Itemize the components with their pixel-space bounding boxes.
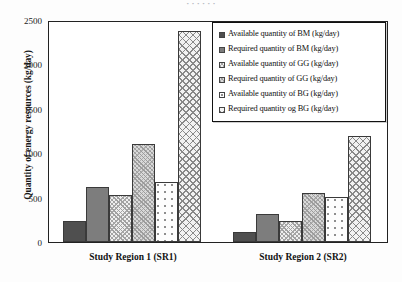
bar [86,187,109,242]
bar [155,182,178,242]
bar [302,193,325,242]
legend-swatch-icon [219,32,225,38]
legend-label: Required quantity of BM (kg/day) [228,45,338,53]
y-tick-label: 1500 [0,105,42,115]
legend-item: Available quantity of GG (kg/day) [219,57,381,72]
x-category-label: Study Region 2 (SR2) [259,252,346,262]
y-tick-label: 2000 [0,60,42,70]
legend-item: Available quantity of BM (kg/day) [219,27,381,42]
y-tick-label: 1000 [0,149,42,159]
y-tick-label: 500 [0,194,42,204]
legend-swatch-icon [219,77,225,83]
chart-legend: Available quantity of BM (kg/day)Require… [212,22,386,122]
legend-label: Available quantity of GG (kg/day) [228,60,338,68]
bar [233,232,256,242]
bar [256,214,279,242]
y-tick-label: 2500 [0,16,42,26]
cropped-title-sliver: · · · · · · [0,0,402,8]
bar [325,197,348,242]
legend-label: Available quantity of BG (kg/day) [228,90,338,98]
bar-chart-figure: · · · · · · Quantity of energy resources… [0,0,402,282]
legend-label: Required quantity of GG (kg/day) [228,75,337,83]
legend-label: Available quantity of BM (kg/day) [228,30,339,38]
x-category-label: Study Region 1 (SR1) [89,252,176,262]
legend-item: Available quantity of BG (kg/day) [219,87,381,102]
legend-label: Required quantity og BG (kg/day) [228,105,338,113]
bar [348,136,371,242]
legend-item: Required quantity of GG (kg/day) [219,72,381,87]
legend-swatch-icon [219,92,225,98]
y-tick-label: 0 [0,238,42,248]
legend-swatch-icon [219,107,225,113]
bar [109,195,132,242]
bar [132,144,155,242]
legend-swatch-icon [219,47,225,53]
legend-item: Required quantity og BG (kg/day) [219,102,381,117]
legend-swatch-icon [219,62,225,68]
bar [63,221,86,242]
legend-item: Required quantity of BM (kg/day) [219,42,381,57]
bar [178,31,201,242]
bar [279,221,302,242]
